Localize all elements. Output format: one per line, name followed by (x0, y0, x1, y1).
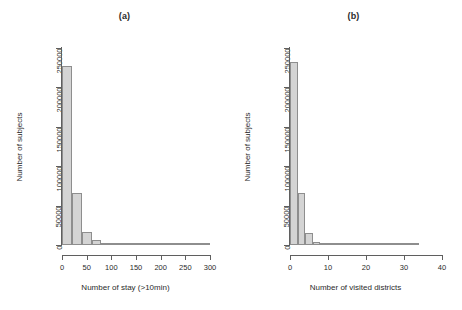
panel-a-bars (62, 48, 210, 245)
panel-b-x-tick-labels: 010203040 (290, 255, 442, 256)
histogram-bar (180, 243, 190, 245)
histogram-bar (141, 243, 151, 245)
panel-a-x-tick-labels: 050100150200250300 (62, 255, 210, 256)
panel-a-title: (a) (0, 11, 231, 21)
histogram-bar (305, 233, 313, 245)
x-axis-tick-label: 200 (154, 263, 167, 272)
histogram-bar (151, 243, 161, 245)
histogram-bar (320, 243, 328, 245)
histogram-bar (366, 243, 374, 245)
figure: (a) Number of subjects 05000010000015000… (0, 0, 462, 310)
x-axis-tick-label: 0 (288, 263, 292, 272)
histogram-bar (171, 243, 181, 245)
x-axis-tick (210, 255, 211, 260)
histogram-bar (374, 243, 382, 245)
histogram-bar (381, 243, 389, 245)
x-axis-tick-label: 30 (400, 263, 408, 272)
x-axis-tick-label: 300 (204, 263, 217, 272)
panel-b: (b) Number of subjects 05000010000015000… (231, 0, 462, 310)
histogram-bar (92, 240, 102, 245)
histogram-bar (131, 243, 141, 245)
y-axis-tick-label: 0 (283, 246, 292, 250)
histogram-bar (298, 193, 306, 245)
histogram-bar (328, 243, 336, 245)
histogram-bar (351, 243, 359, 245)
panel-a-plot-area (62, 48, 210, 245)
histogram-bar (101, 243, 111, 245)
panel-a: (a) Number of subjects 05000010000015000… (0, 0, 231, 310)
histogram-bar (313, 242, 321, 245)
histogram-bar (121, 243, 131, 245)
histogram-bar (396, 243, 404, 245)
panel-b-y-axis-title: Number of subjects (241, 48, 253, 245)
histogram-bar (358, 243, 366, 245)
x-axis-tick (442, 255, 443, 260)
x-axis-tick-label: 20 (362, 263, 370, 272)
panel-b-x-axis-title: Number of visited districts (231, 283, 462, 292)
histogram-bar (290, 62, 298, 245)
x-axis-tick-label: 40 (438, 263, 446, 272)
histogram-bar (336, 243, 344, 245)
panel-b-bars (290, 48, 442, 245)
histogram-bar (412, 243, 420, 245)
panel-a-y-axis-title: Number of subjects (13, 48, 25, 245)
x-axis-tick-label: 150 (130, 263, 143, 272)
histogram-bar (161, 243, 171, 245)
x-axis-tick-label: 100 (105, 263, 118, 272)
x-axis-tick-label: 0 (60, 263, 64, 272)
histogram-bar (111, 243, 121, 245)
panel-b-plot-area (290, 48, 442, 245)
panel-a-x-axis-title: Number of stay (>10min) (0, 283, 231, 292)
y-axis-tick-label: 0 (55, 246, 64, 250)
histogram-bar (62, 66, 72, 245)
x-axis-tick-label: 50 (82, 263, 90, 272)
panel-b-title: (b) (231, 11, 462, 21)
x-axis-tick-label: 10 (324, 263, 332, 272)
histogram-bar (404, 243, 412, 245)
x-axis-tick-label: 250 (179, 263, 192, 272)
histogram-bar (343, 243, 351, 245)
histogram-bar (72, 193, 82, 245)
histogram-bar (389, 243, 397, 245)
histogram-bar (190, 243, 200, 245)
histogram-bar (82, 232, 92, 245)
histogram-bar (200, 243, 210, 245)
